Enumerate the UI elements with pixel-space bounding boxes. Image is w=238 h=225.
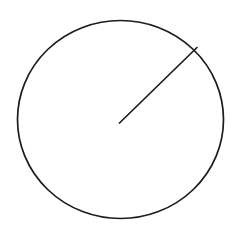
radius-line	[120, 48, 198, 124]
figure-canvas	[0, 0, 238, 225]
circle-outline	[18, 21, 224, 219]
geometry-figure	[0, 0, 238, 225]
